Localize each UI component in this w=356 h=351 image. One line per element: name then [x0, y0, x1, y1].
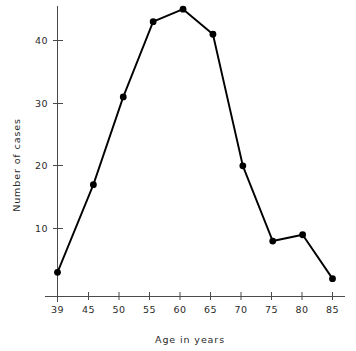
- x-tick-label-50: 50: [113, 304, 126, 315]
- data-series-line: [58, 9, 333, 278]
- x-tick-label-55: 55: [143, 304, 156, 315]
- data-point: [90, 181, 97, 188]
- x-tick-label-39: 39: [51, 304, 64, 315]
- x-tick-label-75: 75: [265, 304, 278, 315]
- data-point-group: [54, 6, 336, 282]
- y-tick-label-40: 40: [35, 35, 48, 46]
- data-point: [210, 31, 217, 38]
- data-point: [329, 275, 336, 282]
- data-point: [299, 231, 306, 238]
- line-chart: 40 30 20 10 39 45 50 55 60 65 70 75 80 8…: [0, 0, 356, 351]
- y-tick-label-20: 20: [35, 160, 48, 171]
- data-point: [54, 269, 61, 276]
- x-tick-label-80: 80: [296, 304, 309, 315]
- x-tick-label-45: 45: [82, 304, 95, 315]
- data-point: [269, 238, 276, 245]
- y-axis-title: Number of cases: [11, 118, 22, 212]
- x-tick-label-70: 70: [235, 304, 248, 315]
- y-tick-label-10: 10: [35, 223, 48, 234]
- x-axis-title: Age in years: [155, 334, 225, 345]
- chart-container: 40 30 20 10 39 45 50 55 60 65 70 75 80 8…: [0, 0, 356, 351]
- x-tick-label-60: 60: [174, 304, 187, 315]
- data-point: [150, 18, 157, 25]
- x-tick-label-65: 65: [204, 304, 217, 315]
- data-point: [239, 162, 246, 169]
- data-point: [120, 94, 127, 101]
- x-tick-label-85: 85: [326, 304, 339, 315]
- data-point: [180, 6, 187, 13]
- y-tick-label-30: 30: [35, 98, 48, 109]
